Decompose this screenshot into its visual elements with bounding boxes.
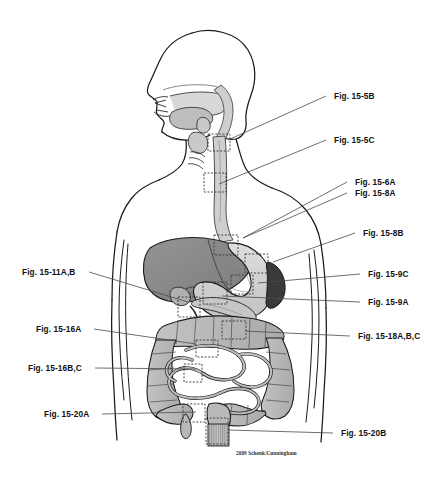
figure-label-fig-15-20B[interactable]: Fig. 15-20B — [341, 428, 386, 438]
figure-label-fig-15-6A[interactable]: Fig. 15-6A — [355, 177, 396, 187]
anatomy-figure: Fig. 15-5BFig. 15-5CFig. 15-6AFig. 15-8A… — [0, 0, 442, 479]
figure-label-fig-15-18A-B-C[interactable]: Fig. 15-18A,B,C — [358, 331, 420, 341]
anatomy-illustration — [0, 0, 442, 479]
figure-label-fig-15-9C[interactable]: Fig. 15-9C — [368, 269, 409, 279]
figure-label-fig-15-20A[interactable]: Fig. 15-20A — [44, 409, 89, 419]
figure-label-fig-15-16B-C[interactable]: Fig. 15-16B,C — [28, 363, 82, 373]
credit-line: 2009 Schenk/Cunningham — [236, 450, 297, 456]
anal-canal — [208, 424, 229, 446]
figure-label-fig-15-8B[interactable]: Fig. 15-8B — [363, 228, 404, 238]
figure-label-fig-15-11A-B[interactable]: Fig. 15-11A,B — [22, 267, 75, 277]
figure-label-fig-15-16A[interactable]: Fig. 15-16A — [36, 324, 81, 334]
rectum — [207, 403, 230, 426]
figure-label-fig-15-5B[interactable]: Fig. 15-5B — [334, 91, 375, 101]
figure-label-fig-15-8A[interactable]: Fig. 15-8A — [355, 188, 396, 198]
figure-label-fig-15-5C[interactable]: Fig. 15-5C — [334, 135, 375, 145]
figure-label-fig-15-9A[interactable]: Fig. 15-9A — [368, 297, 409, 307]
